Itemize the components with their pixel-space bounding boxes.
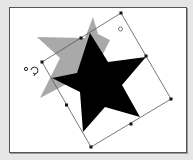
handle-top[interactable] — [120, 12, 123, 15]
handle-right[interactable] — [170, 98, 173, 101]
handle-left[interactable] — [41, 61, 44, 64]
rotation-center-icon[interactable] — [119, 27, 123, 31]
handle-bottom[interactable] — [90, 146, 93, 149]
handle-bottom-right-mid[interactable] — [130, 123, 133, 126]
handle-bottom-left-mid[interactable] — [65, 104, 68, 107]
handle-top-right-mid[interactable] — [145, 55, 148, 58]
handle-top-left-mid[interactable] — [80, 37, 83, 40]
canvas-stage[interactable] — [0, 0, 193, 160]
rotate-cursor-icon — [24, 67, 38, 76]
